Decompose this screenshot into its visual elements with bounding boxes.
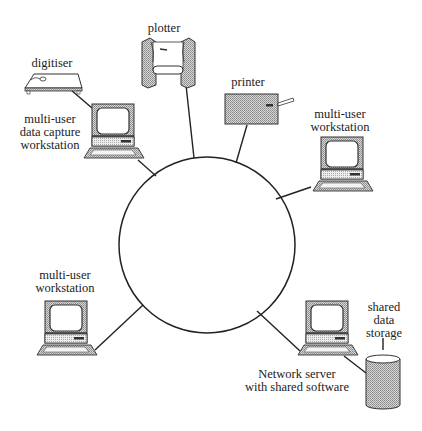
network-diagram: plotter digitiser multi-user data captur… bbox=[0, 0, 422, 431]
left-workstation-label-line-1: multi-user bbox=[39, 268, 91, 282]
plotter-icon bbox=[142, 38, 195, 88]
network-ring bbox=[119, 157, 295, 333]
digitiser-label: digitiser bbox=[32, 56, 74, 70]
link-right-workstation bbox=[276, 187, 311, 199]
link-printer bbox=[236, 125, 247, 163]
plotter-label: plotter bbox=[148, 21, 181, 35]
data-capture-workstation-icon bbox=[84, 104, 144, 158]
right-workstation-label-line-1: multi-user bbox=[314, 107, 366, 121]
link-digitiser bbox=[71, 90, 92, 108]
left-workstation-icon bbox=[37, 301, 97, 355]
left-workstation-label-line-2: workstation bbox=[35, 281, 95, 295]
link-network-server bbox=[257, 311, 300, 351]
storage-label-line-1: shared bbox=[368, 300, 401, 314]
right-workstation-label-line-2: workstation bbox=[310, 120, 370, 134]
printer-icon bbox=[225, 94, 294, 124]
data-capture-label-line-2: data capture bbox=[20, 125, 81, 139]
data-capture-label-line-1: multi-user bbox=[24, 112, 76, 126]
link-plotter bbox=[186, 85, 194, 158]
data-capture-label-line-3: workstation bbox=[20, 138, 80, 152]
network-server-label-line-1: Network server bbox=[258, 367, 336, 381]
storage-label-line-3: storage bbox=[366, 326, 403, 340]
link-left-workstation bbox=[95, 305, 143, 350]
right-workstation-icon bbox=[313, 137, 373, 191]
digitiser-tablet-icon bbox=[25, 74, 82, 94]
storage-cylinder-icon bbox=[366, 355, 400, 409]
network-server-label-line-2: with shared software bbox=[245, 380, 350, 394]
link-data-capture-workstation bbox=[138, 160, 156, 176]
storage-label-line-2: data bbox=[374, 313, 395, 327]
link-shared-storage bbox=[344, 356, 366, 373]
printer-label: printer bbox=[231, 75, 265, 89]
network-server-icon bbox=[298, 301, 358, 355]
